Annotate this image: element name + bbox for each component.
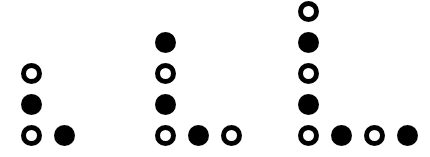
- filled-circle-marker: [331, 125, 352, 146]
- open-circle-marker: [298, 125, 319, 146]
- circle-group: [0, 0, 430, 157]
- open-circle-marker: [298, 1, 319, 22]
- filled-circle-marker: [298, 32, 319, 53]
- circle-pattern-figure: [0, 0, 430, 157]
- open-circle-marker: [364, 125, 385, 146]
- filled-circle-marker: [298, 94, 319, 115]
- open-circle-marker: [298, 63, 319, 84]
- filled-circle-marker: [397, 125, 418, 146]
